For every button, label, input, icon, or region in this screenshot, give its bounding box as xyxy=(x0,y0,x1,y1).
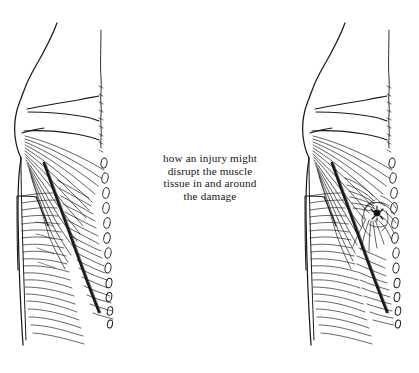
caption-line-4: the damage xyxy=(140,190,280,203)
caption-line-3: tissue in and around xyxy=(140,177,280,190)
caption-line-1: how an injury might xyxy=(140,152,280,165)
caption-block: how an injury might disrupt the muscle t… xyxy=(140,152,280,202)
caption-line-2: disrupt the muscle xyxy=(140,165,280,178)
